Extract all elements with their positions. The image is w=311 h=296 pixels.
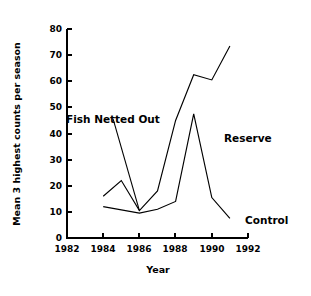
chart-figure: 80 70 60 50 40 30 20 10 0 1982 1984 1986… (0, 0, 311, 296)
annotation-fish-netted-out: Fish Netted Out (66, 113, 160, 125)
x-axis-ticks (67, 233, 248, 238)
y-tick-label-30: 30 (49, 155, 62, 165)
x-tick-label-1992: 1992 (235, 244, 260, 254)
x-axis-title: Year (145, 264, 170, 275)
y-axis-title: Mean 3 highest counts per season (11, 42, 22, 226)
x-tick-label-1984: 1984 (90, 244, 115, 254)
series-label-reserve: Reserve (224, 132, 272, 144)
y-tick-label-60: 60 (49, 76, 62, 86)
line-chart-svg: 80 70 60 50 40 30 20 10 0 1982 1984 1986… (0, 0, 311, 296)
y-tick-label-70: 70 (49, 50, 62, 60)
y-tick-label-20: 20 (49, 181, 62, 191)
x-tick-label-1990: 1990 (199, 244, 224, 254)
x-tick-label-1986: 1986 (126, 244, 151, 254)
x-tick-label-1988: 1988 (162, 244, 187, 254)
series-label-control: Control (245, 214, 288, 226)
x-tick-label-1982: 1982 (54, 244, 79, 254)
data-line-control (103, 114, 230, 219)
chart-axes (67, 29, 248, 238)
fish-netted-out-leader-line (113, 119, 139, 210)
y-tick-label-80: 80 (49, 24, 62, 34)
data-line-reserve (103, 46, 230, 211)
y-tick-label-50: 50 (49, 102, 62, 112)
y-tick-label-10: 10 (49, 207, 62, 217)
y-tick-label-40: 40 (49, 129, 62, 139)
y-tick-label-0: 0 (56, 233, 62, 243)
